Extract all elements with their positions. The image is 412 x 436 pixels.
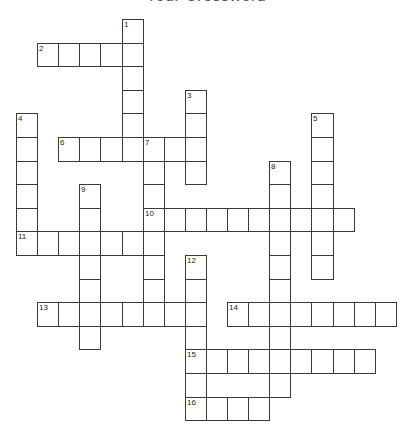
crossword-cell[interactable] xyxy=(185,113,207,138)
crossword-cell[interactable] xyxy=(100,43,123,67)
crossword-cell[interactable]: 12 xyxy=(185,255,207,280)
crossword-cell[interactable] xyxy=(333,208,355,232)
crossword-cell[interactable] xyxy=(122,113,144,138)
crossword-cell[interactable] xyxy=(311,161,334,185)
crossword-cell[interactable] xyxy=(143,231,165,256)
crossword-cell[interactable] xyxy=(58,43,80,67)
crossword-cell[interactable] xyxy=(354,302,376,327)
crossword-cell[interactable] xyxy=(79,137,101,162)
crossword-cell[interactable] xyxy=(354,349,376,374)
crossword-cell[interactable] xyxy=(269,302,291,327)
crossword-cell[interactable] xyxy=(122,43,144,67)
crossword-cell[interactable] xyxy=(122,66,144,91)
crossword-cell[interactable] xyxy=(122,302,144,327)
crossword-cell[interactable]: 13 xyxy=(37,302,59,327)
crossword-cell[interactable] xyxy=(164,137,186,162)
crossword-cell[interactable] xyxy=(143,255,165,280)
crossword-cell[interactable] xyxy=(164,208,186,232)
crossword-cell[interactable] xyxy=(58,231,80,256)
crossword-cell[interactable] xyxy=(164,302,186,327)
crossword-cell[interactable]: 3 xyxy=(185,90,207,114)
crossword-cell[interactable] xyxy=(206,349,228,374)
crossword-cell[interactable] xyxy=(100,137,123,162)
crossword-cell[interactable] xyxy=(311,255,334,280)
crossword-cell[interactable] xyxy=(227,349,249,374)
crossword-cell[interactable] xyxy=(290,208,312,232)
crossword-cell[interactable] xyxy=(100,231,123,256)
crossword-cell[interactable]: 2 xyxy=(37,43,59,67)
clue-number: 10 xyxy=(145,209,154,218)
crossword-cell[interactable] xyxy=(122,231,144,256)
crossword-cell[interactable] xyxy=(185,302,207,327)
crossword-cell[interactable] xyxy=(143,279,165,303)
crossword-cell[interactable]: 15 xyxy=(185,349,207,374)
crossword-cell[interactable] xyxy=(311,349,334,374)
crossword-cell[interactable] xyxy=(185,279,207,303)
crossword-cell[interactable] xyxy=(16,161,38,185)
crossword-cell[interactable]: 4 xyxy=(16,113,38,138)
crossword-cell[interactable] xyxy=(269,184,291,209)
crossword-cell[interactable]: 8 xyxy=(269,161,291,185)
crossword-cell[interactable] xyxy=(79,255,101,280)
crossword-cell[interactable] xyxy=(100,302,123,327)
crossword-cell[interactable] xyxy=(16,184,38,209)
crossword-cell[interactable]: 1 xyxy=(122,19,144,44)
crossword-cell[interactable] xyxy=(185,161,207,185)
crossword-cell[interactable] xyxy=(333,349,355,374)
crossword-cell[interactable]: 14 xyxy=(227,302,249,327)
crossword-cell[interactable] xyxy=(269,349,291,374)
crossword-cell[interactable] xyxy=(58,302,80,327)
crossword-cell[interactable]: 16 xyxy=(185,397,207,421)
crossword-cell[interactable]: 11 xyxy=(16,231,38,256)
crossword-cell[interactable] xyxy=(79,208,101,232)
crossword-cell[interactable] xyxy=(79,279,101,303)
crossword-cell[interactable] xyxy=(269,279,291,303)
crossword-cell[interactable] xyxy=(206,208,228,232)
crossword-cell[interactable] xyxy=(122,137,144,162)
crossword-cell[interactable] xyxy=(206,397,228,421)
crossword-cell[interactable] xyxy=(248,302,270,327)
crossword-cell[interactable]: 10 xyxy=(143,208,165,232)
crossword-cell[interactable] xyxy=(248,397,270,421)
crossword-cell[interactable] xyxy=(269,208,291,232)
crossword-cell[interactable] xyxy=(311,184,334,209)
clue-number: 16 xyxy=(187,398,196,407)
crossword-cell[interactable] xyxy=(79,302,101,327)
crossword-cell[interactable]: 6 xyxy=(58,137,80,162)
clue-number: 12 xyxy=(187,256,196,265)
crossword-cell[interactable] xyxy=(311,137,334,162)
crossword-cell[interactable] xyxy=(269,373,291,398)
crossword-cell[interactable] xyxy=(248,208,270,232)
crossword-cell[interactable] xyxy=(16,137,38,162)
crossword-cell[interactable] xyxy=(185,208,207,232)
crossword-cell[interactable] xyxy=(290,349,312,374)
crossword-cell[interactable] xyxy=(227,208,249,232)
crossword-cell[interactable] xyxy=(16,208,38,232)
crossword-cell[interactable] xyxy=(375,302,397,327)
crossword-cell[interactable] xyxy=(79,43,101,67)
crossword-cell[interactable] xyxy=(185,326,207,350)
crossword-cell[interactable] xyxy=(311,302,334,327)
crossword-cell[interactable] xyxy=(269,255,291,280)
crossword-cell[interactable]: 7 xyxy=(143,137,165,162)
crossword-cell[interactable]: 5 xyxy=(311,113,334,138)
clue-number: 2 xyxy=(39,44,43,53)
crossword-cell[interactable] xyxy=(269,326,291,350)
crossword-cell[interactable] xyxy=(311,208,334,232)
crossword-cell[interactable] xyxy=(37,231,59,256)
crossword-cell[interactable] xyxy=(79,326,101,350)
crossword-cell[interactable] xyxy=(248,349,270,374)
crossword-cell[interactable] xyxy=(333,302,355,327)
crossword-cell[interactable] xyxy=(185,137,207,162)
crossword-cell[interactable] xyxy=(79,231,101,256)
crossword-cell[interactable] xyxy=(269,231,291,256)
crossword-cell[interactable] xyxy=(143,302,165,327)
crossword-cell[interactable]: 9 xyxy=(79,184,101,209)
crossword-cell[interactable] xyxy=(311,231,334,256)
crossword-cell[interactable] xyxy=(122,90,144,114)
crossword-cell[interactable] xyxy=(290,302,312,327)
crossword-cell[interactable] xyxy=(185,373,207,398)
crossword-cell[interactable] xyxy=(143,184,165,209)
crossword-cell[interactable] xyxy=(143,161,165,185)
crossword-cell[interactable] xyxy=(227,397,249,421)
